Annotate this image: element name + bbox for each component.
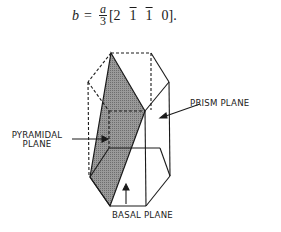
prism-plane-label: PRISM PLANE [190,99,249,108]
pyramidal-plane-shading [90,53,145,206]
pyramidal-label-line2: PLANE [3,140,71,149]
hexagonal-prism-diagram [0,0,281,232]
basal-plane-label: BASAL PLANE [112,211,173,220]
pyramidal-plane-label: PYRAMIDAL PLANE [3,131,71,149]
